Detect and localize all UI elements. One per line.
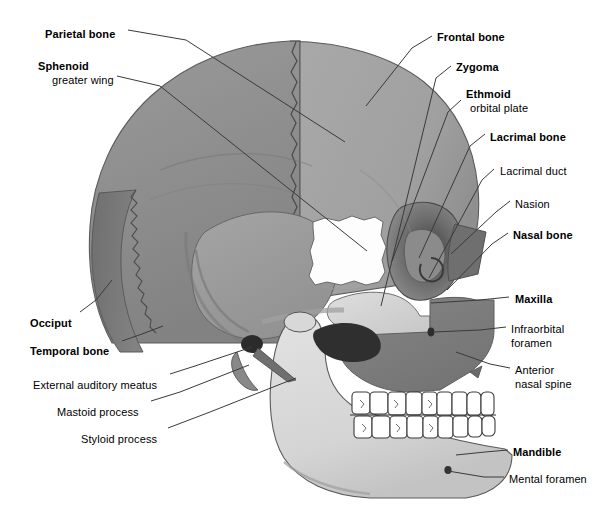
label-greater-wing: greater wing [52,74,114,87]
mastoid-process [232,352,258,390]
label-nasal-spine: nasal spine [515,378,572,391]
label-mental-foramen: Mental foramen [509,473,587,486]
label-lacrimal-duct: Lacrimal duct [500,165,567,178]
skull-anatomy-figure: Parietal boneSphenoidgreater wingOcciput… [0,0,609,527]
label-mastoid-process: Mastoid process [57,406,139,419]
upper-teeth [352,392,494,416]
label-foramen: foramen [511,337,552,350]
label-ethmoid: Ethmoid [466,88,511,101]
teeth-region [350,392,496,438]
mental-foramen [444,466,451,474]
label-parietal-bone: Parietal bone [45,28,115,41]
lower-teeth [354,416,495,438]
label-occiput: Occiput [30,317,72,330]
label-temporal-bone: Temporal bone [30,345,109,358]
label-anterior: Anterior [515,364,554,377]
label-zygoma: Zygoma [456,61,499,74]
ethmoid-orbital-plate [404,229,445,282]
mandibular-condyle [284,312,316,332]
label-nasion: Nasion [515,198,550,211]
label-sphenoid: Sphenoid [38,60,89,73]
label-styloid-process: Styloid process [81,433,157,446]
label-maxilla: Maxilla [515,293,552,306]
label-mandible: Mandible [513,446,561,459]
sphenoid-greater-wing-region [309,216,386,290]
label-external-auditory-meatus: External auditory meatus [33,379,157,392]
label-orbital-plate: orbital plate [470,102,528,115]
label-lacrimal-bone: Lacrimal bone [490,131,566,144]
label-nasal-bone: Nasal bone [513,229,573,242]
label-frontal-bone: Frontal bone [437,31,505,44]
label-infraorbital: Infraorbital [511,323,564,336]
leader-mastoid [151,365,249,401]
